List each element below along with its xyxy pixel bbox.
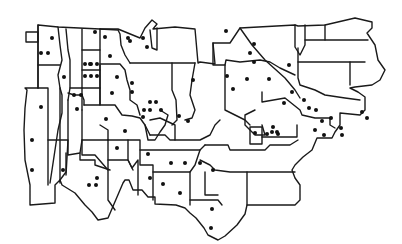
location-dot	[267, 77, 271, 81]
location-dot	[89, 74, 93, 78]
location-dot	[62, 75, 66, 79]
location-dot	[39, 105, 43, 109]
location-dot	[209, 226, 213, 230]
location-dot	[148, 176, 152, 180]
location-dot	[95, 62, 99, 66]
location-dot	[313, 128, 317, 132]
border	[153, 150, 200, 172]
border	[100, 64, 140, 115]
location-dot	[95, 74, 99, 78]
location-dot	[252, 60, 256, 64]
border	[108, 140, 153, 200]
location-dot	[307, 106, 311, 110]
location-dot	[186, 119, 190, 123]
location-dot	[30, 168, 34, 172]
location-dot	[225, 74, 229, 78]
border	[190, 200, 222, 205]
location-dot	[282, 101, 286, 105]
peninsula-region	[150, 28, 157, 50]
border	[48, 140, 108, 155]
location-dot	[224, 29, 228, 33]
border	[140, 145, 205, 150]
border	[205, 140, 298, 150]
location-dot	[320, 119, 324, 123]
location-dot	[95, 176, 99, 180]
location-dot	[93, 30, 97, 34]
location-dot	[115, 146, 119, 150]
border	[185, 63, 195, 120]
location-dot	[178, 191, 182, 195]
border	[240, 28, 300, 98]
location-dot	[87, 183, 91, 187]
location-dot	[46, 51, 50, 55]
border	[84, 65, 100, 105]
location-dot	[329, 116, 333, 120]
border	[172, 63, 177, 125]
border	[66, 29, 70, 100]
location-dot	[270, 130, 274, 134]
location-dot	[275, 130, 279, 134]
location-dot	[245, 77, 249, 81]
location-dot	[94, 183, 98, 187]
border	[262, 92, 330, 118]
location-dot	[141, 36, 145, 40]
location-dot	[83, 74, 87, 78]
location-dot	[103, 35, 107, 39]
border	[100, 29, 130, 63]
location-dot	[104, 117, 108, 121]
location-dot	[108, 54, 112, 58]
location-dot	[83, 62, 87, 66]
location-dot	[115, 75, 119, 79]
border	[295, 25, 305, 55]
location-dot	[231, 87, 235, 91]
border	[108, 140, 115, 210]
location-dot	[191, 78, 195, 82]
outer-boundary	[24, 18, 385, 240]
location-dot	[169, 161, 173, 165]
location-dot	[30, 138, 34, 142]
location-dot	[290, 90, 294, 94]
location-dot	[142, 108, 146, 112]
location-dot	[110, 91, 114, 95]
location-dot	[141, 115, 145, 119]
location-dot	[340, 133, 344, 137]
location-dot	[177, 114, 181, 118]
location-dot	[61, 168, 65, 172]
border	[38, 88, 48, 185]
location-dot	[287, 63, 291, 67]
map-outlines	[24, 18, 385, 240]
location-dot	[154, 100, 158, 104]
location-dot	[89, 62, 93, 66]
border	[100, 125, 108, 140]
location-dot	[148, 100, 152, 104]
location-dot	[365, 116, 369, 120]
tab-region	[26, 32, 38, 42]
location-dot	[322, 133, 326, 137]
location-dot	[314, 108, 318, 112]
location-dot	[130, 81, 134, 85]
location-dot	[75, 107, 79, 111]
region-map	[0, 0, 402, 244]
location-dot	[211, 168, 215, 172]
location-dot	[148, 108, 152, 112]
location-dot	[130, 90, 134, 94]
location-dot	[265, 132, 269, 136]
border	[298, 48, 360, 100]
location-dot	[72, 93, 76, 97]
location-dot	[128, 39, 132, 43]
location-dot	[271, 125, 275, 129]
location-dot	[79, 93, 83, 97]
location-dot	[145, 45, 149, 49]
location-dot	[210, 207, 214, 211]
location-dot	[360, 110, 364, 114]
border	[128, 140, 138, 195]
location-dot	[50, 36, 54, 40]
location-dot	[339, 126, 343, 130]
location-dot	[123, 129, 127, 133]
location-dot	[183, 161, 187, 165]
location-dot	[159, 108, 163, 112]
location-dot	[198, 161, 202, 165]
border	[175, 120, 220, 140]
location-dot	[161, 182, 165, 186]
location-dot	[39, 51, 43, 55]
